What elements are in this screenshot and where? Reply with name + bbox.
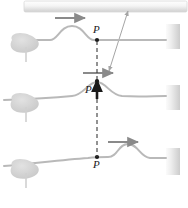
ceiling-bar-rect: [24, 1, 187, 12]
wall-block-bottom: [166, 148, 180, 175]
hand-shape-middle: [11, 93, 39, 113]
hand-shape-bottom: [11, 159, 39, 179]
wave-pulse-figure: P P P: [0, 0, 188, 208]
point-label-bottom: P: [93, 159, 100, 170]
wall-block-top: [166, 24, 180, 49]
hand-shape-top: [11, 33, 39, 53]
hand-top: [11, 33, 39, 62]
hand-middle: [11, 93, 39, 122]
point-label-middle: P: [85, 84, 92, 95]
panel-bottom: [4, 142, 180, 188]
wall-block-middle: [166, 85, 180, 110]
ceiling-bar: [24, 1, 187, 12]
panel-middle: [4, 73, 180, 122]
point-label-top: P: [93, 24, 100, 35]
